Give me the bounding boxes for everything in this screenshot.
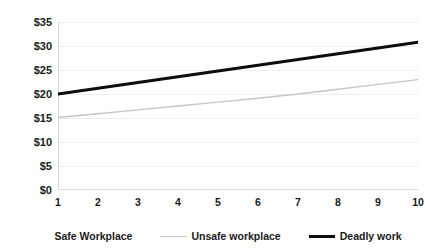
y-tick-label: $10	[0, 137, 52, 148]
y-tick-label: $0	[0, 185, 52, 196]
plot-svg	[58, 22, 418, 190]
chart-legend: Safe WorkplaceUnsafe workplaceDeadly wor…	[0, 226, 425, 246]
y-tick-label: $30	[0, 41, 52, 52]
plot-area	[58, 22, 418, 190]
line-swatch-gray-icon	[160, 236, 186, 237]
x-tick-label: 10	[412, 196, 424, 208]
x-tick-label: 3	[135, 196, 141, 208]
legend-item-label: Deadly work	[340, 230, 402, 242]
x-tick-label: 6	[255, 196, 261, 208]
x-tick-label: 7	[295, 196, 301, 208]
line-swatch-white-icon	[23, 236, 49, 237]
x-axis: 12345678910	[58, 196, 418, 212]
y-tick-label: $5	[0, 161, 52, 172]
y-tick-label: $25	[0, 65, 52, 76]
legend-item-label: Unsafe workplace	[191, 230, 280, 242]
y-tick-label: $35	[0, 17, 52, 28]
legend-item[interactable]: Unsafe workplace	[160, 230, 280, 242]
x-tick-label: 8	[335, 196, 341, 208]
x-tick-label: 2	[95, 196, 101, 208]
y-tick-label: $20	[0, 89, 52, 100]
line-swatch-black-icon	[309, 235, 335, 238]
legend-item-label: Safe Workplace	[54, 230, 132, 242]
y-axis: $0$5$10$15$20$25$30$35	[0, 0, 52, 250]
line-chart: $0$5$10$15$20$25$30$35 12345678910 Safe …	[0, 0, 425, 250]
x-tick-label: 9	[375, 196, 381, 208]
x-tick-label: 1	[55, 196, 61, 208]
legend-item[interactable]: Safe Workplace	[23, 230, 132, 242]
y-tick-label: $15	[0, 113, 52, 124]
legend-item[interactable]: Deadly work	[309, 230, 402, 242]
x-tick-label: 4	[175, 196, 181, 208]
x-tick-label: 5	[215, 196, 221, 208]
